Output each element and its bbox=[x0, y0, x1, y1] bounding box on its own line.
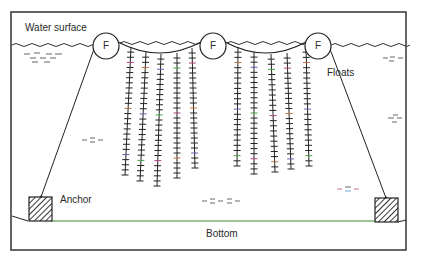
label-bottom: Bottom bbox=[206, 229, 238, 239]
hanging-line bbox=[287, 53, 291, 169]
water-surface-line bbox=[12, 44, 96, 47]
seabed-line-left bbox=[12, 216, 28, 221]
hanging-lines bbox=[122, 47, 313, 186]
anchor-right bbox=[375, 198, 398, 222]
mooring-rope-left bbox=[41, 49, 94, 197]
water-surface-line-middle-left bbox=[120, 42, 208, 45]
label-water-surface: Water surface bbox=[25, 23, 87, 33]
label-anchor: Anchor bbox=[60, 195, 92, 205]
water-surface-line-right bbox=[331, 44, 410, 47]
hanging-line bbox=[271, 54, 275, 172]
label-float-center: F bbox=[210, 41, 216, 51]
label-floats: Floats bbox=[327, 68, 354, 78]
hanging-line bbox=[125, 47, 131, 175]
label-float-left: F bbox=[103, 41, 109, 51]
seabed-line-right bbox=[398, 220, 406, 222]
hanging-line bbox=[140, 52, 146, 181]
longline-diagram: Water surface F F F Floats Anchor Bottom bbox=[0, 0, 422, 257]
hanging-line bbox=[306, 47, 309, 166]
anchor-left bbox=[29, 197, 52, 221]
hanging-line bbox=[237, 47, 238, 166]
label-float-right: F bbox=[315, 41, 321, 51]
